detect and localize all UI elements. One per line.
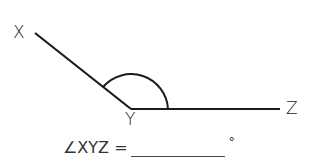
label-z: Z <box>286 100 298 117</box>
angle-question: ∠XYZ = ° <box>63 138 235 157</box>
angle-arc <box>103 74 168 109</box>
degree-symbol: ° <box>229 134 236 149</box>
answer-blank[interactable] <box>131 140 225 157</box>
label-y: Y <box>125 111 135 128</box>
ray-yx <box>35 33 131 109</box>
label-x: X <box>13 24 25 41</box>
question-prefix: ∠XYZ = <box>63 138 128 157</box>
